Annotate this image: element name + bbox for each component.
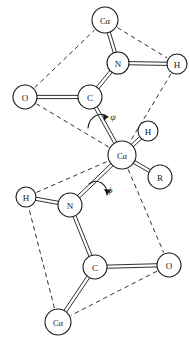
bond-stroke xyxy=(130,136,141,146)
atom-r-group: R xyxy=(148,165,172,189)
atom-c-upper: C xyxy=(78,85,102,109)
atom-circle-r-group xyxy=(148,165,172,189)
bond-stroke xyxy=(66,277,91,314)
bond-ca-center-r-group xyxy=(132,160,152,173)
atom-circle-n-top xyxy=(107,52,129,74)
atom-circle-ca-bottom xyxy=(45,309,71,335)
psi-angle-label: ψ xyxy=(110,112,116,122)
bond-n-top-c-upper xyxy=(95,69,113,90)
atom-ca-top: Cα xyxy=(92,7,118,33)
plane-edge-upper-peptide-plane xyxy=(117,28,167,58)
atom-o-right: O xyxy=(157,253,181,277)
plane-edge-lower-peptide-plane xyxy=(29,208,55,308)
atom-o-left: O xyxy=(13,85,37,109)
atom-circle-h-bottom-left xyxy=(16,187,36,207)
atom-circle-o-left xyxy=(13,85,37,109)
plane-edge-upper-peptide-plane xyxy=(37,104,109,147)
plane-edge-lower-peptide-plane xyxy=(71,271,157,315)
bond-stroke xyxy=(95,69,110,88)
phi-rotation-arrow xyxy=(89,181,107,195)
bond-stroke xyxy=(127,65,168,66)
bond-ca-top-n-top xyxy=(107,31,117,55)
bond-stroke xyxy=(98,71,113,90)
atom-circle-ca-top xyxy=(92,7,118,33)
bond-stroke xyxy=(105,264,158,265)
molecule-canvas: CαNHOCCαHRNHCOCα ψ ϕ xyxy=(0,0,189,345)
bond-stroke xyxy=(75,214,92,257)
atom-n-bottom: N xyxy=(58,193,82,217)
bond-stroke xyxy=(106,267,159,268)
bond-c-lower-ca-bottom xyxy=(63,275,90,314)
plane-edge-upper-peptide-plane xyxy=(35,30,95,88)
bond-stroke xyxy=(107,31,114,54)
bond-n-top-h-top-right xyxy=(127,62,168,66)
atom-n-top: N xyxy=(107,52,129,74)
bond-c-lower-o-right xyxy=(105,264,158,269)
atom-circle-n-bottom xyxy=(58,193,82,217)
atom-h-bottom-left: H xyxy=(16,187,36,207)
bond-stroke xyxy=(132,138,143,148)
atom-circle-h-top-right xyxy=(167,54,187,74)
atom-c-lower: C xyxy=(83,255,107,279)
bond-stroke xyxy=(110,31,117,54)
atom-circle-c-lower xyxy=(83,255,107,279)
bond-o-left-c-upper xyxy=(36,95,80,98)
bond-n-bottom-h-bottom-left xyxy=(34,197,60,205)
atom-ca-bottom: Cα xyxy=(45,309,71,335)
atom-circle-ca-center xyxy=(108,141,136,169)
atom-circle-h-center xyxy=(138,121,158,141)
bond-n-bottom-c-lower xyxy=(72,214,92,258)
atom-circle-c-upper xyxy=(78,85,102,109)
atom-h-center: H xyxy=(138,121,158,141)
molecular-diagram: CαNHOCCαHRNHCOCα ψ ϕ xyxy=(0,0,189,345)
atom-ca-center: Cα xyxy=(108,141,136,169)
atom-h-top-right: H xyxy=(167,54,187,74)
atom-circle-o-right xyxy=(157,253,181,277)
phi-angle-label: ϕ xyxy=(108,185,113,195)
atom-nodes: CαNHOCCαHRNHCOCα xyxy=(13,7,187,335)
bond-stroke xyxy=(63,275,88,312)
bond-stroke xyxy=(128,62,169,63)
bond-stroke xyxy=(72,215,89,258)
